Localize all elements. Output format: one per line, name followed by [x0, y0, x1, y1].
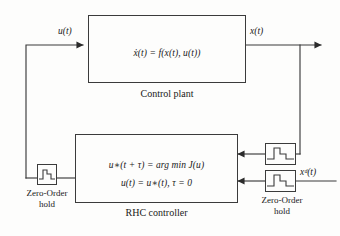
- rhc-block-diagram: ẋ(t) = f(x(t), u(t)) Control plant u(t) …: [0, 0, 340, 236]
- zoh-left-block[interactable]: [37, 164, 57, 185]
- signal-label-desired-state: xᵈ(t): [300, 167, 316, 177]
- zero-order-hold-icon: [266, 144, 295, 164]
- zoh-left-label: Zero-Order hold: [8, 188, 86, 211]
- signal-label-control-input: u(t): [58, 26, 72, 36]
- zero-order-hold-icon: [38, 165, 56, 184]
- control-plant-block[interactable]: ẋ(t) = f(x(t), u(t)): [88, 15, 246, 83]
- desired-state-text: xᵈ(t): [300, 167, 316, 177]
- zoh-lower-right-block[interactable]: [265, 170, 296, 192]
- zero-order-hold-icon: [266, 171, 295, 191]
- zoh-lower-right-label-line1: Zero-Order: [243, 195, 321, 206]
- zoh-left-label-line1: Zero-Order: [8, 188, 86, 199]
- rhc-controller-block[interactable]: u∗(t + τ) = arg min J(u) u(t) = u∗(t), τ…: [75, 134, 238, 203]
- zoh-lower-right-label-line2: hold: [243, 206, 321, 217]
- zoh-upper-right-block[interactable]: [265, 143, 296, 165]
- control-plant-caption: Control plant: [88, 88, 246, 99]
- zoh-left-label-line2: hold: [8, 199, 86, 210]
- zoh-lower-right-label: Zero-Order hold: [243, 195, 321, 218]
- signal-label-state-output: x(t): [250, 26, 263, 36]
- rhc-equation-line-1: u∗(t + τ) = arg min J(u): [109, 160, 204, 170]
- rhc-controller-caption: RHC controller: [75, 207, 238, 218]
- plant-equation: ẋ(t) = f(x(t), u(t)): [134, 48, 201, 58]
- rhc-equation-line-2: u(t) = u∗(t), τ = 0: [121, 178, 192, 188]
